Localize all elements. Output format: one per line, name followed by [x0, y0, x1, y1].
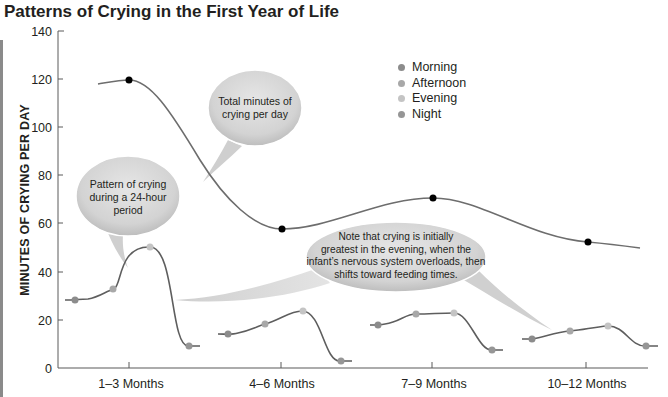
- evening-point: [451, 310, 458, 317]
- callout-pattern-line1: Pattern of crying: [78, 178, 178, 191]
- y-tick-40: 40: [38, 266, 52, 280]
- afternoon-point: [262, 321, 269, 328]
- callout-note-line2: greatest in the evening, when the: [301, 244, 491, 257]
- legend-dot-night-icon: [398, 111, 405, 118]
- daily-pattern-7-9-months: [370, 310, 503, 354]
- y-tick-100: 100: [31, 121, 52, 135]
- callout-tail-total: [203, 140, 242, 182]
- callout-note-line3: infant’s nervous system overloads, then: [301, 256, 491, 269]
- total-point-1-3: [126, 77, 133, 84]
- evening-point: [605, 323, 612, 330]
- morning-point: [72, 297, 79, 304]
- y-tick-0: 0: [45, 362, 52, 376]
- night-point: [489, 347, 496, 354]
- y-tick-80: 80: [38, 169, 52, 183]
- night-point: [186, 343, 193, 350]
- x-axis: 1–3 Months 4–6 Months 7–9 Months 10–12 M…: [58, 362, 648, 391]
- total-point-10-12: [585, 239, 592, 246]
- morning-point: [225, 331, 232, 338]
- legend-label-morning: Morning: [412, 60, 457, 76]
- callout-note-line1: Note that crying is initially: [301, 231, 491, 244]
- night-point: [643, 343, 650, 350]
- x-label-10-12-months: 10–12 Months: [547, 377, 626, 391]
- y-axis: 140 120 100 80 60 40 20 0 MINUTES OF CRY…: [18, 25, 64, 376]
- morning-point: [529, 336, 536, 343]
- legend-dot-evening-icon: [398, 95, 405, 102]
- y-tick-120: 120: [31, 73, 52, 87]
- callout-total-line2: crying per day: [205, 108, 305, 121]
- x-label-7-9-months: 7–9 Months: [401, 377, 466, 391]
- daily-pattern-4-6-months: [218, 308, 352, 365]
- legend-item-night: Night: [398, 107, 466, 123]
- morning-point: [375, 322, 382, 329]
- callout-total: Total minutes of crying per day: [205, 95, 305, 121]
- y-tick-60: 60: [38, 217, 52, 231]
- evening-point: [147, 244, 154, 251]
- x-label-4-6-months: 4–6 Months: [249, 377, 314, 391]
- legend-label-evening: Evening: [412, 91, 457, 107]
- daily-pattern-1-3-months: [65, 244, 200, 350]
- legend-item-morning: Morning: [398, 60, 466, 76]
- legend-item-evening: Evening: [398, 91, 466, 107]
- callout-pattern-line3: period: [78, 204, 178, 217]
- legend-label-afternoon: Afternoon: [412, 76, 466, 92]
- daily-pattern-10-12-months: [522, 323, 658, 350]
- callout-pattern: Pattern of crying during a 24-hour perio…: [78, 178, 178, 217]
- night-point: [338, 358, 345, 365]
- y-tick-140: 140: [31, 25, 52, 39]
- y-tick-20: 20: [38, 314, 52, 328]
- afternoon-point: [567, 328, 574, 335]
- afternoon-point: [413, 311, 420, 318]
- legend-label-night: Night: [412, 107, 441, 123]
- total-point-7-9: [430, 195, 437, 202]
- legend-dot-morning-icon: [398, 64, 405, 71]
- afternoon-point: [110, 286, 117, 293]
- total-point-4-6: [279, 226, 286, 233]
- legend: Morning Afternoon Evening Night: [398, 60, 466, 122]
- callout-note: Note that crying is initially greatest i…: [301, 231, 491, 281]
- callout-pattern-line2: during a 24-hour: [78, 191, 178, 204]
- legend-item-afternoon: Afternoon: [398, 76, 466, 92]
- y-axis-title: MINUTES OF CRYING PER DAY: [18, 104, 32, 296]
- x-label-1-3-months: 1–3 Months: [98, 377, 163, 391]
- callout-total-line1: Total minutes of: [205, 95, 305, 108]
- callout-note-line4: shifts toward feeding times.: [301, 269, 491, 282]
- evening-point: [300, 308, 307, 315]
- legend-dot-afternoon-icon: [398, 80, 405, 87]
